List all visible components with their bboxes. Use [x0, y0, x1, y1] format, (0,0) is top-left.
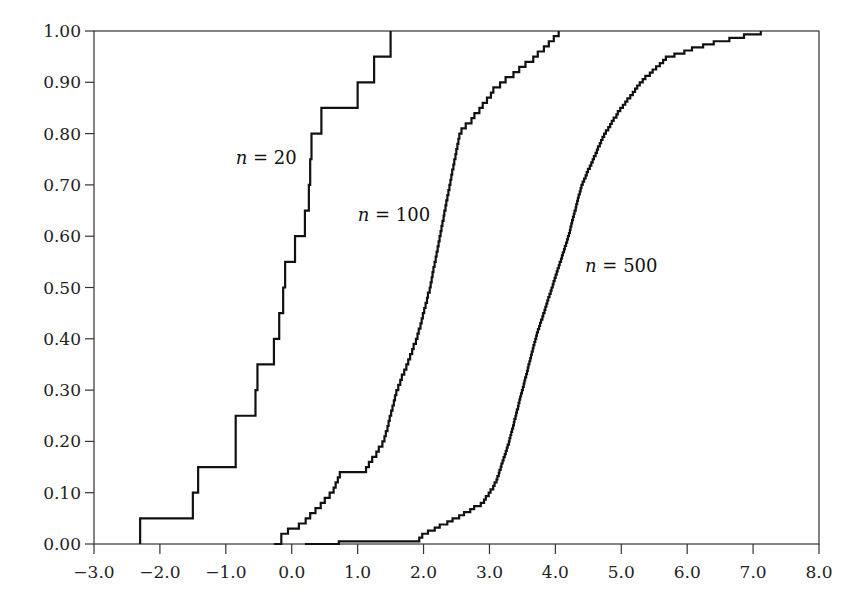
- x-tick-label: 7.0: [740, 562, 767, 582]
- ecdf-curve-n500: [305, 31, 761, 544]
- y-tick-label: 0.20: [43, 431, 81, 451]
- x-tick-label: 6.0: [674, 562, 701, 582]
- x-tick-label: −1.0: [205, 562, 246, 582]
- y-tick-label: 0.30: [43, 380, 81, 400]
- y-tick-label: 0.90: [43, 72, 81, 92]
- y-tick-label: 0.40: [43, 329, 81, 349]
- x-tick-label: 1.0: [344, 562, 371, 582]
- x-tick-label: −2.0: [139, 562, 180, 582]
- y-tick-label: 0.70: [43, 175, 81, 195]
- y-tick-label: 0.60: [43, 226, 81, 246]
- ecdf-chart: 0.000.100.200.300.400.500.600.700.800.90…: [0, 0, 854, 616]
- x-tick-label: −3.0: [73, 562, 114, 582]
- ecdf-curves: [140, 31, 761, 544]
- x-tick-label: 2.0: [410, 562, 437, 582]
- curve-label: n = 100: [358, 204, 430, 225]
- plot-axes: 0.000.100.200.300.400.500.600.700.800.90…: [43, 21, 832, 582]
- ecdf-curve-n20: [140, 31, 390, 544]
- y-tick-label: 1.00: [43, 21, 81, 41]
- x-tick-label: 0.0: [278, 562, 305, 582]
- ecdf-curve-n100: [274, 31, 559, 544]
- curve-label: n = 20: [236, 147, 297, 168]
- curve-label: n = 500: [585, 255, 657, 276]
- y-tick-label: 0.00: [43, 534, 81, 554]
- y-tick-label: 0.80: [43, 124, 81, 144]
- x-tick-label: 4.0: [542, 562, 569, 582]
- x-tick-label: 8.0: [805, 562, 832, 582]
- y-tick-label: 0.10: [43, 483, 81, 503]
- x-tick-label: 3.0: [476, 562, 503, 582]
- y-tick-label: 0.50: [43, 278, 81, 298]
- curve-labels: n = 20n = 100n = 500: [236, 147, 658, 276]
- x-tick-label: 5.0: [608, 562, 635, 582]
